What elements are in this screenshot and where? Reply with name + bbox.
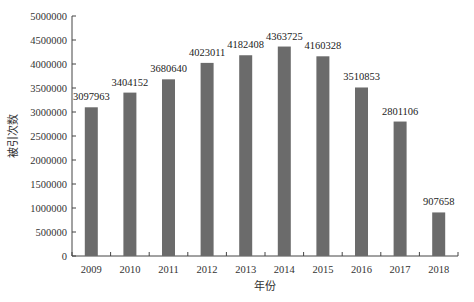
x-tick-label: 2014 xyxy=(274,264,296,275)
bar xyxy=(394,122,407,256)
y-axis: 0500000100000015000002000000250000030000… xyxy=(30,11,76,262)
y-tick-label: 4000000 xyxy=(30,59,67,70)
bar-value-label: 3404152 xyxy=(112,77,149,88)
bar xyxy=(355,87,368,256)
x-tick-label: 2012 xyxy=(197,264,218,275)
bar-value-label: 4160328 xyxy=(305,40,342,51)
x-tick-label: 2015 xyxy=(312,264,333,275)
bar-value-label: 2801106 xyxy=(382,106,418,117)
y-tick-label: 1000000 xyxy=(30,203,67,214)
x-tick-label: 2010 xyxy=(119,264,140,275)
y-tick-label: 1500000 xyxy=(30,179,67,190)
bar xyxy=(239,55,252,256)
bar-chart: 0500000100000015000002000000250000030000… xyxy=(0,0,474,302)
y-tick-label: 500000 xyxy=(36,227,68,238)
bar-value-label: 3097963 xyxy=(73,91,110,102)
bar xyxy=(201,63,214,256)
bar-value-label: 907658 xyxy=(423,196,455,207)
x-axis-title: 年份 xyxy=(254,279,276,292)
bar-value-label: 3510853 xyxy=(343,71,380,82)
bar-value-label: 3680640 xyxy=(150,63,187,74)
bar-value-label: 4363725 xyxy=(266,31,303,42)
y-tick-label: 5000000 xyxy=(30,11,67,22)
x-tick-label: 2011 xyxy=(158,264,179,275)
bar xyxy=(85,107,98,256)
bar xyxy=(316,56,329,256)
x-tick-label: 2017 xyxy=(390,264,411,275)
x-tick-label: 2013 xyxy=(235,264,256,275)
y-tick-label: 4500000 xyxy=(30,35,67,46)
bar xyxy=(432,212,445,256)
y-tick-label: 2500000 xyxy=(30,131,67,142)
y-tick-label: 0 xyxy=(62,251,67,262)
x-tick-label: 2009 xyxy=(81,264,102,275)
bar-value-label: 4182408 xyxy=(227,39,264,50)
bar xyxy=(123,93,136,256)
bar xyxy=(278,47,291,256)
y-axis-title: 被引次数 xyxy=(6,114,19,158)
bar-value-label: 4023011 xyxy=(189,47,225,58)
y-tick-label: 2000000 xyxy=(30,155,67,166)
y-tick-label: 3000000 xyxy=(30,107,67,118)
y-tick-label: 3500000 xyxy=(30,83,67,94)
x-tick-label: 2016 xyxy=(351,264,372,275)
bar xyxy=(162,79,175,256)
x-tick-label: 2018 xyxy=(428,264,449,275)
